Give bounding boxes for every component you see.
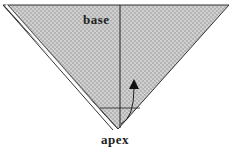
base-label: base	[83, 12, 110, 28]
apex-label: apex	[101, 132, 129, 148]
paper-triangle	[3, 5, 229, 129]
origami-diagram	[0, 0, 229, 151]
